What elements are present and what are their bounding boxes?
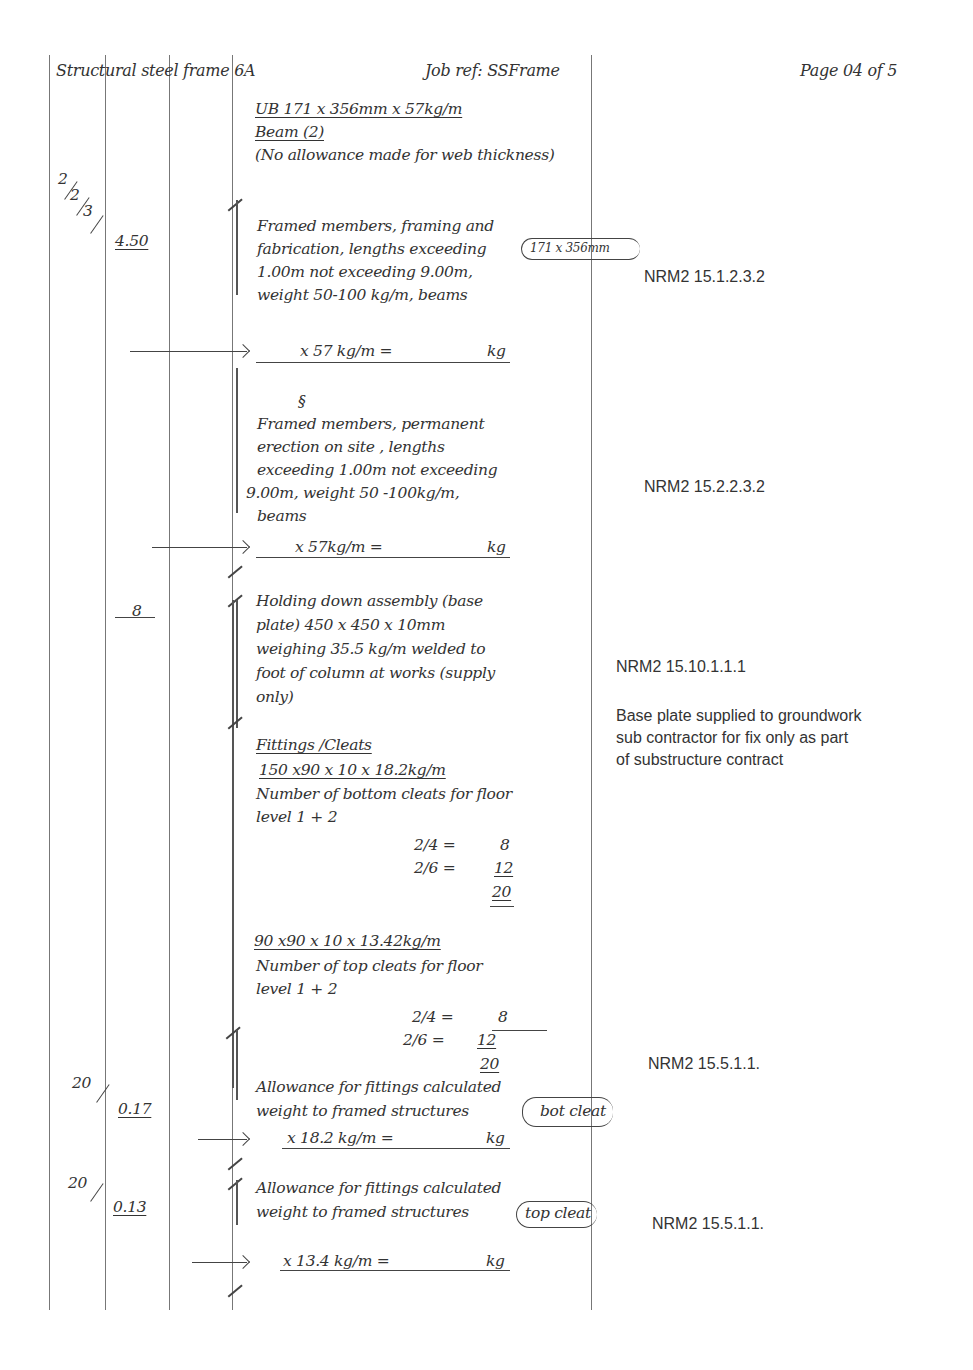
item-description-line: Framed members, permanent [257, 413, 484, 435]
item-description-line: 9.00m, weight 50 -100kg/m, [246, 482, 459, 504]
timesing-1: 2 [58, 168, 68, 190]
bracket-line [236, 200, 238, 295]
dimension-value: 8 [132, 600, 142, 622]
bottom-cleat-description: level 1 + 2 [256, 806, 337, 828]
calc-expression: 2/6 = [414, 857, 455, 879]
annotation-size: 171 x 356mm [530, 237, 610, 259]
item-description-line: weighing 35.5 kg/m welded to [256, 638, 485, 660]
timesing-value: 20 [68, 1172, 87, 1194]
item-description-line: weight to framed structures [256, 1100, 469, 1122]
bottom-cleat-description: Number of bottom cleats for floor [256, 783, 512, 805]
calc-weight: x 18.2 kg/m = [287, 1127, 393, 1149]
calc-underline [256, 362, 510, 363]
carry-arrow [198, 1139, 247, 1140]
nrm2-reference: NRM2 15.1.2.3.2 [644, 266, 765, 287]
item-description-line: Allowance for fittings calculated [256, 1177, 501, 1199]
item-description-line: Framed members, framing and [257, 215, 494, 237]
calc-value: 12 [494, 857, 513, 879]
bracket-tick [228, 1284, 243, 1297]
carry-arrow [192, 1262, 247, 1263]
calc-weight: x 13.4 kg/m = [283, 1250, 389, 1272]
sheet-title: Structural steel frame 6A [56, 60, 255, 82]
calc-expression: 2/4 = [414, 834, 455, 856]
calc-value: 8 [498, 1006, 508, 1028]
timesing-slash [96, 1084, 110, 1103]
section-heading: UB 171 x 356mm x 57kg/m [255, 98, 462, 120]
item-description-line: weight to framed structures [256, 1201, 469, 1223]
bracket-tick [228, 1157, 243, 1170]
bracket-line [236, 600, 238, 728]
side-note-line: Base plate supplied to groundwork [616, 705, 862, 726]
timesing-2: 2 [70, 184, 80, 206]
dimension-value: 0.17 [118, 1098, 151, 1120]
calc-weight: x 57kg/m = [295, 536, 383, 558]
dimension-underline [115, 617, 155, 618]
item-description-line: erection on site , lengths [257, 436, 445, 458]
bracket-line [236, 1030, 238, 1100]
nrm2-reference: NRM2 15.5.1.1. [652, 1213, 764, 1234]
timesing-value: 20 [72, 1072, 91, 1094]
bracket-line [232, 600, 234, 728]
item-description-line: plate) 450 x 450 x 10mm [256, 614, 445, 636]
timesing-slash [90, 1183, 104, 1202]
calc-unit: kg [487, 340, 506, 362]
calc-expression: 2/4 = [412, 1006, 453, 1028]
item-description-line: Holding down assembly (base [256, 590, 483, 612]
carry-arrow [152, 547, 247, 548]
nrm2-reference: NRM2 15.10.1.1.1 [616, 656, 746, 677]
item-description-line: 1.00m not exceeding 9.00m, [257, 261, 473, 283]
item-description-line: fabrication, lengths exceeding [257, 238, 486, 260]
side-note-line: sub contractor for fix only as part [616, 727, 848, 748]
bracket-tick [228, 565, 243, 578]
top-cleat-size: 90 x90 x 10 x 13.42kg/m [254, 930, 441, 952]
dimension-value: 0.13 [113, 1196, 146, 1218]
annotation-label: top cleat [525, 1202, 591, 1224]
calc-total: 20 [492, 881, 511, 903]
item-description-line: exceeding 1.00m not exceeding [257, 459, 497, 481]
calc-unit: kg [486, 1250, 505, 1272]
bracket-line [236, 368, 238, 513]
calc-rule [492, 1030, 547, 1031]
fittings-heading: Fittings /Cleats [256, 734, 372, 756]
job-reference: Job ref: SSFrame [425, 60, 560, 82]
calc-unit: kg [487, 536, 506, 558]
item-description-line: foot of column at works (supply [256, 662, 495, 684]
bracket-tick [228, 716, 243, 729]
top-cleat-description: Number of top cleats for floor [256, 955, 482, 977]
annotation-label: bot cleat [540, 1100, 606, 1122]
column-line-dimension [105, 55, 106, 1310]
calc-value: 8 [500, 834, 510, 856]
carry-arrow [130, 351, 247, 352]
section-note: (No allowance made for web thickness) [255, 144, 555, 166]
ditto-symbol: § [298, 390, 305, 412]
timesing-3: 3 [83, 200, 93, 222]
item-description-line: only) [256, 686, 294, 708]
bracket-tick [228, 1177, 243, 1190]
cutoff-previous-text [958, 0, 963, 7]
calc-unit: kg [486, 1127, 505, 1149]
calc-value: 12 [477, 1029, 496, 1051]
item-description-line: Allowance for fittings calculated [256, 1076, 501, 1098]
calc-total: 20 [480, 1053, 499, 1075]
page-number: Page 04 of 5 [800, 60, 897, 82]
calc-expression: 2/6 = [403, 1029, 444, 1051]
nrm2-reference: NRM2 15.5.1.1. [648, 1053, 760, 1074]
bracket-tick [228, 198, 243, 211]
side-note-line: of substructure contract [616, 749, 783, 770]
dimension-value: 4.50 [115, 230, 148, 252]
calc-weight: x 57 kg/m = [300, 340, 392, 362]
bottom-cleat-size: 150 x90 x 10 x 18.2kg/m [259, 759, 446, 781]
item-description-line: beams [257, 505, 307, 527]
nrm2-reference: NRM2 15.2.2.3.2 [644, 476, 765, 497]
column-line-squaring [169, 55, 170, 1310]
item-description-line: weight 50-100 kg/m, beams [257, 284, 468, 306]
column-line-timesing [49, 55, 50, 1310]
top-cleat-description: level 1 + 2 [256, 978, 337, 1000]
bracket-line [236, 1180, 238, 1225]
section-subheading: Beam (2) [255, 121, 324, 143]
bracket-tick [228, 594, 243, 607]
total-double-underline [490, 906, 514, 907]
